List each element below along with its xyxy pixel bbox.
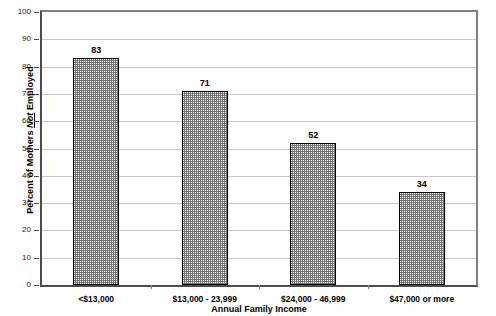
bars-container: 83715234 [42,12,476,285]
y-axis-tick [34,203,39,204]
y-axis-tick-label: 70 [0,90,31,98]
y-axis-tick [34,149,39,150]
y-axis-tick-label: 80 [0,63,31,71]
y-axis-tick-label: 90 [0,35,31,43]
bar-value-label: 52 [308,130,318,140]
x-axis-title: Annual Family Income [40,304,478,314]
bar[interactable] [182,91,228,285]
y-axis-tick [34,121,39,122]
bar-group: 71 [151,12,260,285]
bar-group: 52 [259,12,368,285]
x-axis-tick [368,285,369,289]
x-axis-category-label: $24,000 - 46,999 [259,294,368,304]
y-axis-tick-label: 30 [0,199,31,207]
y-axis-tick-label: 20 [0,226,31,234]
y-axis-tick [34,230,39,231]
y-axis-tick [34,39,39,40]
x-axis-category-label: <$13,000 [42,294,151,304]
y-axis-tick [34,94,39,95]
y-axis-tick [34,258,39,259]
bar-value-label: 71 [200,78,210,88]
y-axis-tick-label: 60 [0,117,31,125]
y-axis-tick-label: 50 [0,145,31,153]
bar-chart: Percent of Mothers Not Employed 01020304… [0,0,496,316]
bar-value-label: 34 [417,179,427,189]
y-axis-tick-label: 40 [0,172,31,180]
y-axis-tick-label: 0 [0,281,31,289]
y-axis-tick-label: 100 [0,8,31,16]
plot-area: 83715234 [40,10,478,287]
y-axis-tick [34,12,39,13]
y-axis-tick [34,176,39,177]
bar[interactable] [73,58,119,285]
y-axis-tick [34,67,39,68]
bar[interactable] [290,143,336,285]
bar-group: 34 [368,12,477,285]
bar-group: 83 [42,12,151,285]
bar-value-label: 83 [91,45,101,55]
x-axis-tick [151,285,152,289]
x-axis-category-label: $47,000 or more [368,294,477,304]
x-axis-tick [259,285,260,289]
bar[interactable] [399,192,445,285]
y-axis-tick-label: 10 [0,254,31,262]
y-axis-tick [34,285,39,286]
x-axis-category-label: $13,000 - 23,999 [151,294,260,304]
